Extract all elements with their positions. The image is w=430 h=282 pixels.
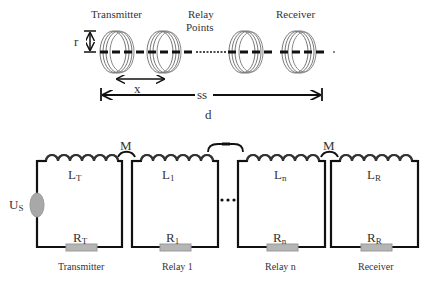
source-label: US (9, 198, 23, 213)
diagram-canvas (0, 0, 430, 282)
inductor-label-lt: LT (68, 168, 81, 183)
inductor-label-lr: LR (367, 168, 381, 183)
radius-dimension (84, 31, 96, 52)
distance-label: d (205, 108, 212, 121)
ellipsis-dots (220, 198, 235, 201)
relay-points-label-line1: Relay (188, 9, 214, 20)
radius-label: r (74, 35, 78, 48)
inductor-label-l1: L1 (162, 168, 174, 183)
mutual-coupling-arcs (118, 144, 338, 157)
mutual-inductance-label-1: M (120, 139, 132, 152)
loop-name-relay-1: Relay 1 (162, 262, 193, 272)
circuit-wires (37, 161, 418, 247)
resistor-label-r1: R1 (166, 231, 179, 246)
loop-name-receiver: Receiver (358, 262, 394, 272)
loop-name-relay-n: Relay n (265, 262, 296, 272)
resistor-label-rr: RR (367, 231, 382, 246)
receiver-label: Receiver (276, 9, 315, 20)
resistor-label-rn: Rn (273, 231, 286, 246)
resistor-label-rt: RT (73, 231, 87, 246)
relay-points-label-line2: Points (186, 22, 214, 33)
transmitter-label: Transmitter (91, 9, 142, 20)
spacing-label: x (134, 82, 141, 95)
mutual-inductance-label-2: M (323, 139, 335, 152)
span-label: ss (197, 88, 207, 101)
loop-name-transmitter: Transmitter (58, 262, 104, 272)
voltage-source-icon (30, 193, 44, 217)
inductor-label-ln: Ln (274, 168, 286, 183)
